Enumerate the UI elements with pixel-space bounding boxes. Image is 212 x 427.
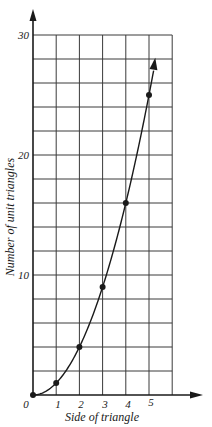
data-point xyxy=(123,200,129,206)
x-tick-1: 1 xyxy=(55,398,61,410)
data-curve xyxy=(33,71,154,395)
y-axis-arrow-icon xyxy=(30,9,37,21)
x-tick-5: 5 xyxy=(148,396,154,408)
y-tick-labels: 30 20 10 xyxy=(17,29,30,281)
x-tick-0: 0 xyxy=(23,398,29,410)
y-tick-20: 20 xyxy=(18,149,30,161)
x-tick-labels: 0 1 2 3 4 5 xyxy=(23,396,154,410)
x-tick-2: 2 xyxy=(78,398,84,410)
y-axis-title: Number of unit triangles xyxy=(3,158,17,278)
chart: 30 20 10 0 1 2 3 4 5 Side of triangle Nu… xyxy=(0,0,212,427)
y-tick-30: 30 xyxy=(17,29,30,41)
data-point xyxy=(53,380,59,386)
data-point xyxy=(30,392,36,398)
curve-arrow-icon xyxy=(149,58,157,70)
x-tick-4: 4 xyxy=(125,398,131,410)
data-point xyxy=(100,284,106,290)
y-tick-10: 10 xyxy=(18,269,30,281)
x-axis-arrow-icon xyxy=(190,392,203,399)
x-axis-title: Side of triangle xyxy=(65,410,140,424)
data-point xyxy=(76,344,82,350)
data-points xyxy=(30,92,152,398)
data-point xyxy=(146,92,152,98)
x-tick-3: 3 xyxy=(101,398,108,410)
grid xyxy=(33,35,172,395)
